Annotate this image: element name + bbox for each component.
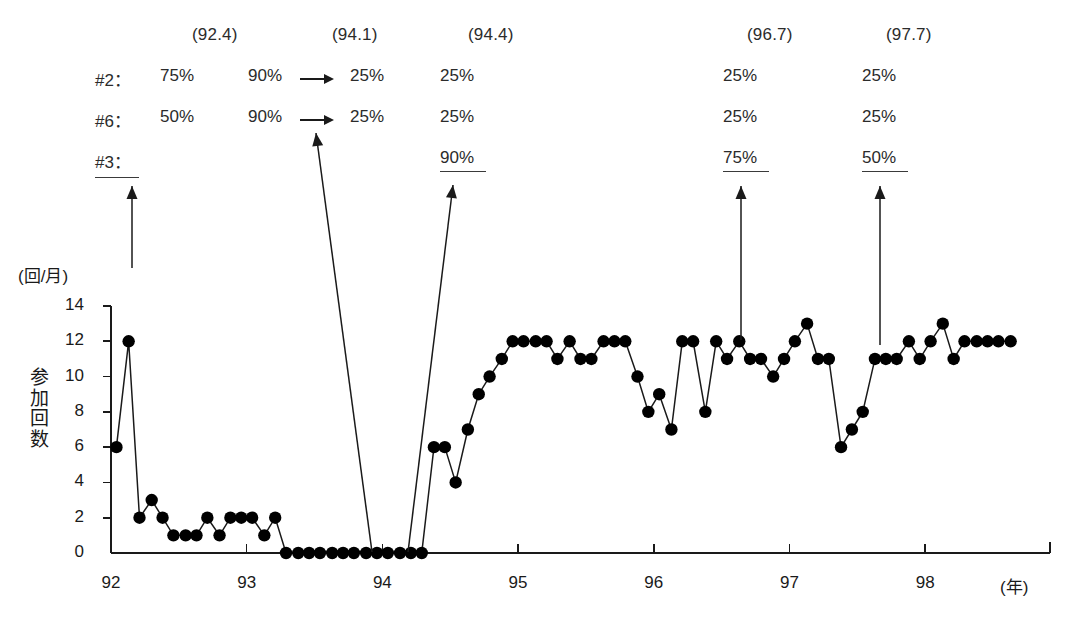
data-point [303,547,315,559]
data-point [687,335,699,347]
data-point [201,512,213,524]
plot-canvas [0,0,1072,621]
data-point [146,494,158,506]
data-point [122,335,134,347]
data-point [574,353,586,365]
data-point [449,476,461,488]
data-point [597,335,609,347]
data-point [789,335,801,347]
data-point [903,335,915,347]
arrow-94-4 [408,184,458,552]
data-point [653,388,665,400]
data-point [947,353,959,365]
arrow-head-icon [875,186,886,199]
data-point [517,335,529,347]
data-point [530,335,542,347]
data-point [314,547,326,559]
data-point [496,353,508,365]
data-point [280,547,292,559]
arrow-94-1 [311,132,372,552]
data-point [665,423,677,435]
data-point [869,353,881,365]
data-point [439,441,451,453]
data-point [551,353,563,365]
data-point [506,335,518,347]
data-point [755,353,767,365]
data-point [699,406,711,418]
data-point [416,547,428,559]
data-point [190,529,202,541]
data-point [710,335,722,347]
data-point [258,529,270,541]
data-point [483,370,495,382]
data-point [642,406,654,418]
data-point [835,441,847,453]
data-point [405,547,417,559]
data-point [213,529,225,541]
data-point [224,512,236,524]
data-point [721,353,733,365]
data-point [110,441,122,453]
data-point [428,441,440,453]
data-point [801,317,813,329]
data-point [778,353,790,365]
data-point [269,512,281,524]
data-point [473,388,485,400]
data-point [914,353,926,365]
data-point [585,353,597,365]
data-point [823,353,835,365]
arrow-head-icon [736,186,747,199]
callout-arrows [127,132,886,552]
arrow-head-icon [446,184,459,198]
data-point [958,335,970,347]
arrow-92-4 [127,186,138,268]
data-point [971,335,983,347]
data-point [382,547,394,559]
data-point [857,406,869,418]
data-point [133,512,145,524]
data-point [156,512,168,524]
data-point [608,335,620,347]
arrow-96-7 [736,186,747,340]
data-point [619,335,631,347]
data-point [924,335,936,347]
data-point [733,335,745,347]
data-point [326,547,338,559]
data-point [462,423,474,435]
data-point [394,547,406,559]
data-point [371,547,383,559]
data-point [890,353,902,365]
chart-figure: (92.4)(94.1)(94.4)(96.7)(97.7)#2：75%90%2… [0,0,1072,621]
data-point [992,335,1004,347]
data-point [167,529,179,541]
data-point [540,335,552,347]
data-point [846,423,858,435]
data-point [767,370,779,382]
data-point [937,317,949,329]
data-series [110,317,1017,559]
data-point [246,512,258,524]
data-point [292,547,304,559]
data-point [981,335,993,347]
data-point [631,370,643,382]
data-point [880,353,892,365]
data-point [337,547,349,559]
data-point [348,547,360,559]
data-point [360,547,372,559]
arrow-head-icon [127,186,138,199]
data-point [812,353,824,365]
data-point [1004,335,1016,347]
data-point [235,512,247,524]
data-point [563,335,575,347]
data-point [179,529,191,541]
arrow-97-7 [875,186,886,345]
data-point [676,335,688,347]
data-point [744,353,756,365]
